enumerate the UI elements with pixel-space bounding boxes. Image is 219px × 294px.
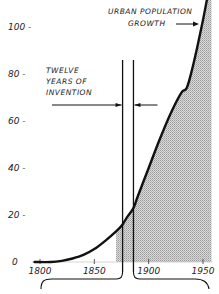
x-tick-label: 1800: [29, 266, 52, 276]
y-tick-label: 40 -: [8, 163, 26, 173]
chart: 1800185019001950020 -40 -60 -80 -100 - U…: [0, 0, 219, 294]
arrowhead-icon: [134, 103, 140, 107]
invention-label-line2: YEARS OF: [46, 77, 87, 86]
y-tick-label: 0: [12, 257, 18, 267]
urban-growth-label-line1: URBAN POPULATION: [108, 7, 192, 16]
y-tick-label: 60 -: [8, 116, 26, 126]
x-tick-label: 1850: [83, 266, 106, 276]
x-tick-label: 1950: [192, 266, 215, 276]
y-tick-label: 80 -: [8, 69, 26, 79]
arrowhead-icon: [193, 22, 199, 27]
bracket-left: [41, 272, 123, 289]
urban-growth-label-line2: GROWTH: [128, 19, 166, 28]
invention-label-line1: TWELVE: [46, 66, 79, 75]
arrowhead-icon: [116, 103, 122, 107]
x-tick-label: 1900: [137, 266, 160, 276]
y-tick-label: 20 -: [8, 210, 26, 220]
y-tick-label: 100 -: [8, 22, 31, 32]
invention-label-line3: INVENTION: [46, 88, 92, 97]
